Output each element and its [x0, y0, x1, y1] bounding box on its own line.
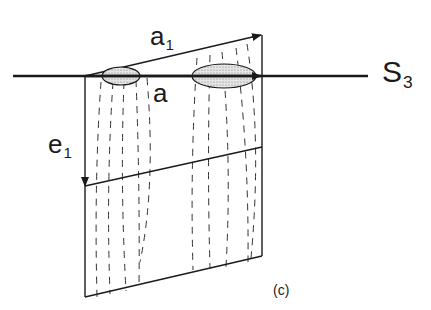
label-s3-main: S	[382, 55, 402, 88]
label-e1: e1	[48, 131, 72, 157]
label-s3: S3	[382, 57, 413, 87]
dashed-lines-left	[96, 78, 150, 297]
label-e1-main: e	[48, 129, 62, 159]
label-e1-sub: 1	[63, 144, 71, 161]
label-s3-sub: 3	[403, 72, 413, 92]
label-a-main: a	[153, 78, 167, 108]
label-a1-sub: 1	[165, 36, 173, 53]
label-a1-main: a	[150, 21, 164, 51]
label-a: a	[153, 80, 167, 106]
label-a1: a1	[150, 23, 174, 49]
panel-label: (c)	[273, 283, 289, 297]
